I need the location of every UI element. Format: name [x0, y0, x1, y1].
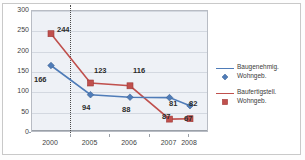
chart-container: 300 250 200 150 100 50 0 — [0, 0, 305, 160]
data-label-baufertigstell-2007: 81 — [169, 99, 177, 108]
data-label-baufertigstell-2000: 244 — [57, 25, 70, 34]
x-axis-tick — [149, 134, 150, 137]
data-point-marker — [127, 94, 134, 101]
legend-swatch-red — [216, 90, 234, 97]
x-axis-tick-label: 2008 — [172, 138, 206, 147]
legend-label-line1: Baugenehmig. — [237, 62, 300, 71]
legend-label-line2: Wohngeb. — [237, 71, 300, 80]
chart-legend: Baugenehmig. Wohngeb. Baufertigstell. Wo… — [216, 62, 300, 112]
x-axis: 2000 2005 2006 2007 2008 — [31, 134, 208, 150]
diamond-marker-icon — [222, 66, 228, 72]
data-label-baugenehmig-2000: 166 — [34, 75, 47, 84]
legend-item-baufertigstell[interactable]: Baufertigstell. Wohngeb. — [216, 87, 300, 105]
y-axis-tick-label: 200 — [3, 47, 29, 55]
y-axis-tick-label: 250 — [3, 26, 29, 34]
x-axis-tick-label: 2006 — [112, 138, 146, 147]
legend-label-line2: Wohngeb. — [237, 96, 300, 105]
y-axis-tick — [29, 132, 31, 133]
x-axis-tick — [188, 134, 189, 137]
data-label-baufertigstell-2005: 123 — [94, 66, 107, 75]
y-axis-tick-label: 0 — [3, 128, 29, 136]
data-point-marker — [127, 83, 133, 89]
y-axis-tick-label: 50 — [3, 108, 29, 116]
data-point-marker — [48, 31, 54, 37]
legend-label-line1: Baufertigstell. — [237, 87, 300, 96]
data-label-baugenehmig-2005: 94 — [82, 103, 90, 112]
data-point-marker — [88, 80, 94, 86]
y-axis-tick-label: 150 — [3, 67, 29, 75]
data-label-baufertigstell-2006: 116 — [133, 66, 145, 75]
data-label-baugenehmig-2007: 87 — [162, 112, 170, 121]
data-label-baufertigstell-2008: 82 — [189, 99, 197, 108]
data-label-baugenehmig-2008: 67 — [184, 114, 192, 123]
x-axis-tick — [109, 134, 110, 137]
x-axis-tick-label: 2000 — [33, 138, 67, 147]
legend-item-baugenehmig[interactable]: Baugenehmig. Wohngeb. — [216, 62, 300, 80]
legend-swatch-blue — [216, 65, 234, 72]
square-marker-icon — [222, 91, 228, 97]
x-axis-tick-label: 2005 — [73, 138, 107, 147]
plot-area: 244 123 116 81 82 166 94 88 87 67 — [31, 10, 208, 132]
y-axis: 300 250 200 150 100 50 0 — [0, 10, 29, 132]
x-axis-tick — [70, 134, 71, 137]
data-label-baugenehmig-2006: 88 — [122, 105, 130, 114]
y-axis-tick-label: 300 — [3, 6, 29, 14]
y-axis-tick-label: 100 — [3, 87, 29, 95]
